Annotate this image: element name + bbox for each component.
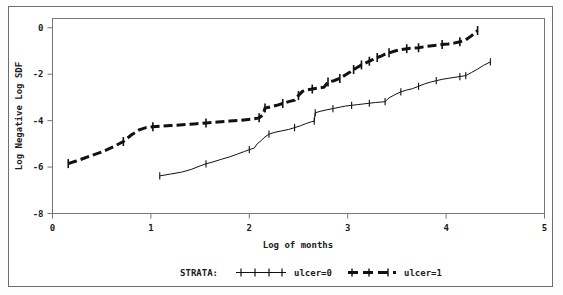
legend-entry-ulcer-0[interactable]: ulcer=0 [236,268,332,278]
y-tick-label: 0 [38,23,43,33]
legend: STRATA: ulcer=0 ulcer=1 [180,268,442,278]
x-tick-label: 2 [247,223,252,233]
y-axis-title: Log Negative Log SDF [14,62,24,170]
y-tick-label: -2 [33,69,44,79]
x-tick-label: 5 [542,223,547,233]
x-tick-label: 3 [345,223,350,233]
y-axis-tick-labels: 0-2-4-6-8 [33,23,44,219]
y-tick-label: -4 [33,116,44,126]
loglog-survival-chart: 012345 0-2-4-6-8 Log of months Log Negat… [0,0,563,295]
plot-frame [53,19,545,214]
plot-area: 012345 0-2-4-6-8 Log of months Log Negat… [0,0,563,295]
legend-title: STRATA: [180,268,218,278]
x-tick-label: 4 [443,223,449,233]
x-axis-title: Log of months [263,240,333,250]
legend-entry-ulcer-1[interactable]: ulcer=1 [348,268,442,278]
x-tick-label: 0 [50,223,55,233]
y-axis-ticks [48,28,53,214]
y-tick-label: -6 [33,162,44,172]
legend-label-ulcer-0: ulcer=0 [294,268,332,278]
chart-root: 012345 0-2-4-6-8 Log of months Log Negat… [0,0,563,295]
x-axis-ticks [53,214,545,219]
y-tick-label: -8 [33,209,44,219]
x-tick-label: 1 [148,223,153,233]
x-axis-tick-labels: 012345 [50,223,547,233]
legend-label-ulcer-1: ulcer=1 [404,268,442,278]
